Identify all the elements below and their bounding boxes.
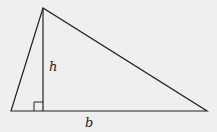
triangle	[11, 8, 207, 111]
base-label: b	[85, 115, 93, 130]
height-label: h	[49, 59, 57, 74]
right-angle-marker	[34, 102, 43, 111]
triangle-diagram: h b	[0, 0, 217, 132]
